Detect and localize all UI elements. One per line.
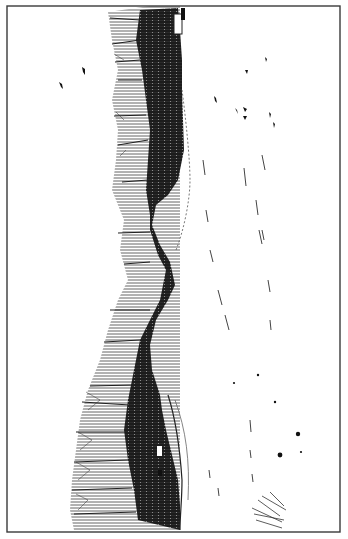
cottage-door — [158, 470, 162, 476]
bird-icon — [233, 382, 235, 384]
bird-icon — [296, 432, 300, 436]
engraving-illustration — [0, 0, 348, 539]
bird-icon — [300, 451, 302, 453]
bird-icon — [274, 401, 276, 403]
bird-icon — [278, 453, 283, 458]
house-roof — [181, 8, 185, 20]
cottage — [157, 446, 162, 456]
landscape-svg — [0, 0, 348, 539]
house — [174, 14, 182, 34]
bird-icon — [257, 374, 259, 376]
